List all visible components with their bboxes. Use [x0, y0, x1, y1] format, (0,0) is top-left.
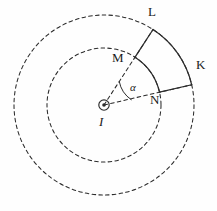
label-current-i: I [99, 115, 103, 128]
solid-segment-n-to-k [160, 85, 192, 92]
outer-solid-arc-l-to-k [153, 30, 192, 85]
current-out-of-page-icon-dot [102, 103, 106, 107]
label-point-m: M [112, 51, 124, 64]
diagram-canvas [0, 0, 217, 211]
label-point-n: N [150, 93, 159, 106]
label-point-l: L [148, 5, 156, 18]
solid-segment-m-to-l [135, 30, 153, 58]
label-point-k: K [196, 58, 205, 71]
physics-diagram-figure: L K M N α I [0, 0, 217, 211]
inner-solid-arc-m-to-n [135, 57, 159, 92]
label-angle-alpha: α [130, 82, 136, 93]
